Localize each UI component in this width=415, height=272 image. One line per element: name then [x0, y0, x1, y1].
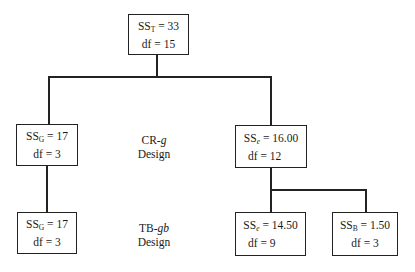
ss-symbol: SS — [243, 219, 256, 231]
df-value: 3 — [55, 236, 61, 248]
df-value: 12 — [270, 150, 282, 162]
connector-level1-horizontal — [48, 76, 272, 78]
df-label: df — [33, 236, 43, 248]
tbgb-design-label: TB-gb Design — [114, 221, 194, 249]
connector-groups-down — [46, 166, 48, 212]
df-value: 3 — [373, 237, 379, 249]
label-italic: gb — [158, 222, 170, 234]
ss-symbol: SS — [138, 20, 151, 32]
equals-sign: = — [364, 237, 371, 249]
ss-row: SSG = 17 — [26, 217, 68, 235]
equals-sign: = — [158, 20, 165, 32]
df-row: df = 12 — [236, 149, 281, 163]
equals-sign: = — [47, 218, 54, 230]
ss-symbol: SS — [26, 218, 39, 230]
df-label: df — [351, 237, 361, 249]
df-value: 9 — [270, 237, 276, 249]
df-value: 3 — [55, 148, 61, 160]
ss-value: 17 — [56, 218, 68, 230]
connector-right-down — [270, 76, 272, 125]
ss-symbol: SS — [340, 219, 353, 231]
ss-row: SSG = 17 — [26, 129, 68, 147]
tbgb-blocks-ss-box: SSB = 1.50 df = 3 — [332, 212, 398, 256]
total-ss-box: SST = 33 df = 15 — [128, 14, 189, 55]
equals-sign: = — [260, 237, 267, 249]
ss-symbol: SS — [26, 130, 39, 142]
tbgb-groups-ss-box: SSG = 17 df = 3 — [17, 212, 77, 254]
ss-row: SSe = 14.50 — [243, 218, 297, 236]
ss-value: 17 — [56, 130, 68, 142]
df-label: df — [33, 148, 43, 160]
connector-level2-horizontal — [270, 189, 367, 191]
equals-sign: = — [361, 219, 368, 231]
df-label: df — [142, 38, 152, 50]
df-row: df = 3 — [351, 236, 379, 250]
design-name: TB-gb — [114, 221, 194, 235]
ss-row: SST = 33 — [138, 19, 179, 37]
ss-row: SSe = 16.00 — [244, 131, 298, 149]
ss-subscript: e — [257, 137, 260, 146]
ss-subscript: G — [39, 223, 44, 232]
label-italic: g — [161, 134, 167, 146]
label-prefix: CR- — [142, 134, 161, 146]
crg-error-ss-box: SSe = 16.00 df = 12 — [235, 125, 307, 168]
equals-sign: = — [154, 38, 161, 50]
ss-row: SSB = 1.50 — [340, 218, 390, 236]
connector-root-down — [156, 54, 158, 76]
design-name: CR-g — [114, 133, 194, 147]
label-prefix: TB- — [139, 222, 158, 234]
ss-subscript: B — [353, 224, 358, 233]
connector-error-down — [270, 167, 272, 189]
tbgb-error-ss-box: SSe = 14.50 df = 9 — [235, 212, 306, 256]
design-word: Design — [114, 147, 194, 161]
connector-error2-down — [270, 189, 272, 212]
df-row: df = 9 — [236, 236, 276, 250]
df-label: df — [248, 150, 258, 162]
crg-design-label: CR-g Design — [114, 133, 194, 161]
design-word: Design — [114, 235, 194, 249]
ss-subscript: T — [151, 25, 156, 34]
df-value: 15 — [164, 38, 176, 50]
df-row: df = 3 — [33, 235, 61, 249]
equals-sign: = — [263, 132, 270, 144]
ss-subscript: e — [256, 224, 259, 233]
equals-sign: = — [46, 236, 53, 248]
ss-symbol: SS — [244, 132, 257, 144]
df-row: df = 15 — [142, 37, 175, 51]
equals-sign: = — [46, 148, 53, 160]
connector-blocks-down — [365, 189, 367, 212]
crg-groups-ss-box: SSG = 17 df = 3 — [16, 124, 78, 166]
ss-value: 1.50 — [370, 219, 390, 231]
equals-sign: = — [260, 150, 267, 162]
ss-value: 16.00 — [272, 132, 298, 144]
ss-value: 14.50 — [272, 219, 298, 231]
df-label: df — [248, 237, 258, 249]
ss-subscript: G — [39, 135, 44, 144]
df-row: df = 3 — [33, 147, 61, 161]
equals-sign: = — [47, 130, 54, 142]
ss-value: 33 — [168, 20, 180, 32]
equals-sign: = — [262, 219, 269, 231]
connector-left-down — [48, 76, 50, 124]
